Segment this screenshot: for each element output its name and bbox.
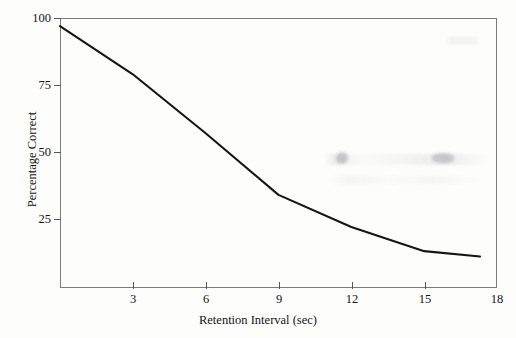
x-tick-label-9: 9: [259, 292, 299, 307]
y-tick-25: [54, 219, 61, 220]
data-series-line: [60, 26, 480, 256]
x-tick-15: [425, 282, 426, 289]
y-tick-100: [54, 18, 61, 19]
x-tick-12: [352, 282, 353, 289]
x-tick-label-3: 3: [113, 292, 153, 307]
x-tick-label-6: 6: [186, 292, 226, 307]
x-tick-label-18: 18: [477, 292, 516, 307]
x-tick-9: [279, 282, 280, 289]
chart-figure: 100 75 50 25 3 6 9 12 15 18 Percentage C…: [0, 0, 516, 338]
x-axis-title: Retention Interval (sec): [0, 313, 516, 328]
y-tick-label-100: 100: [18, 11, 51, 26]
x-tick-label-15: 15: [405, 292, 445, 307]
y-tick-50: [54, 152, 61, 153]
chart-plot-svg: [0, 0, 516, 338]
y-tick-75: [54, 85, 61, 86]
y-axis-title: Percentage Correct: [25, 65, 40, 255]
x-tick-3: [133, 282, 134, 289]
x-tick-label-12: 12: [332, 292, 372, 307]
x-tick-6: [206, 282, 207, 289]
